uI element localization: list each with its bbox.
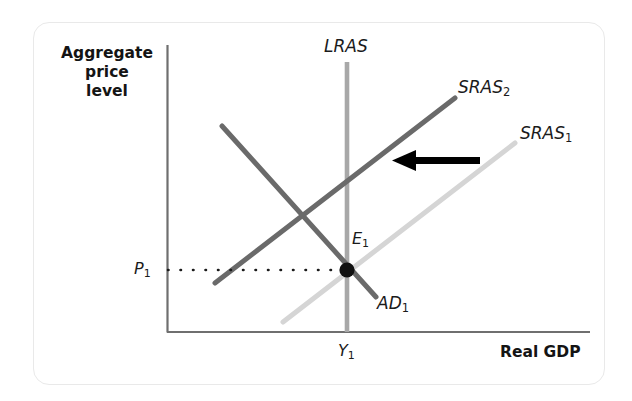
- output-tick-text: Y: [338, 341, 348, 360]
- leftward-shift-arrow: [392, 150, 480, 171]
- sras1-label: SRAS1: [520, 123, 572, 143]
- equilibrium-point-e1: [339, 262, 354, 277]
- sras2-label-text: SRAS: [458, 77, 503, 97]
- sras2-label: SRAS2: [458, 77, 510, 97]
- sras2-curve: [215, 98, 455, 283]
- y-axis-title-line-3: level: [55, 82, 159, 101]
- output-tick-label: Y1: [338, 341, 355, 360]
- output-tick-subscript: 1: [348, 349, 355, 362]
- price-level-tick-text: P: [134, 259, 144, 278]
- equilibrium-label-text: E: [352, 229, 362, 248]
- price-level-tick-subscript: 1: [144, 267, 151, 280]
- x-axis-title: Real GDP: [500, 343, 581, 362]
- y-axis-title-line-2: price: [55, 63, 159, 82]
- sras1-label-subscript: 1: [565, 131, 572, 145]
- price-level-tick-label: P1: [134, 259, 151, 278]
- equilibrium-label: E1: [352, 229, 369, 248]
- equilibrium-label-subscript: 1: [362, 237, 369, 250]
- figure-canvas: Aggregate price level Real GDP LRAS SRAS…: [0, 0, 632, 401]
- sras2-label-subscript: 2: [503, 85, 510, 99]
- y-axis-title-line-1: Aggregate: [55, 44, 159, 63]
- y-axis-title: Aggregate price level: [55, 44, 159, 101]
- lras-label: LRAS: [324, 36, 368, 56]
- lras-label-text: LRAS: [324, 36, 368, 56]
- sras1-label-text: SRAS: [520, 123, 565, 143]
- ad1-label-text: AD: [377, 293, 402, 313]
- ad1-label: AD1: [377, 293, 409, 313]
- ad1-label-subscript: 1: [402, 301, 409, 315]
